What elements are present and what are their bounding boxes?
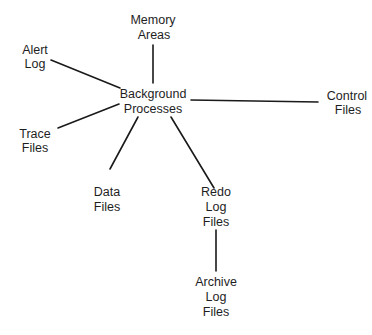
node-label-line: Files xyxy=(94,200,120,214)
node-label-line: Archive xyxy=(195,275,237,289)
node-label-line: Processes xyxy=(124,102,182,116)
edge-background-to-trace-files xyxy=(58,104,119,128)
node-label-line: Areas xyxy=(138,28,171,42)
node-archive-log-files: Archive Log Files xyxy=(195,275,237,319)
node-label-line: Alert xyxy=(22,43,48,57)
diagram-canvas: Background Processes Memory Areas Alert … xyxy=(0,0,372,335)
node-label-line: Files xyxy=(203,305,229,319)
node-label-line: Memory xyxy=(130,13,176,27)
node-label-line: Files xyxy=(335,103,361,117)
node-redo-log-files: Redo Log Files xyxy=(201,185,231,229)
edge-background-to-control-files xyxy=(191,100,318,102)
node-label-line: Log xyxy=(206,200,227,214)
edge-background-to-data-files xyxy=(110,117,138,169)
node-alert-log: Alert Log xyxy=(22,43,48,71)
node-label-line: Background xyxy=(120,87,187,101)
edge-background-to-redo-log-files xyxy=(171,117,214,188)
node-label-line: Redo xyxy=(201,185,231,199)
node-label-line: Files xyxy=(203,215,229,229)
node-label-line: Control xyxy=(327,89,367,103)
node-label-line: Log xyxy=(206,290,227,304)
node-control-files: Control Files xyxy=(327,89,367,117)
edge-background-to-alert-log xyxy=(51,60,120,88)
node-memory-areas: Memory Areas xyxy=(130,13,176,42)
node-label-line: Trace xyxy=(19,127,51,141)
node-label-line: Log xyxy=(25,57,46,71)
node-label-line: Data xyxy=(94,185,120,199)
node-trace-files: Trace Files xyxy=(19,127,51,155)
node-data-files: Data Files xyxy=(94,185,120,214)
node-background-processes: Background Processes xyxy=(120,87,187,116)
node-label-line: Files xyxy=(22,141,48,155)
